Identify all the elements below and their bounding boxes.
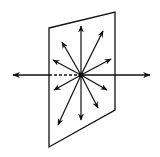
radial-arrow-upper-right <box>81 31 103 75</box>
vector-plane-diagram <box>0 0 160 157</box>
radial-arrow-lower-left <box>58 75 81 125</box>
plane <box>49 12 115 147</box>
plane-outline <box>49 12 115 147</box>
origin-point <box>78 72 83 77</box>
